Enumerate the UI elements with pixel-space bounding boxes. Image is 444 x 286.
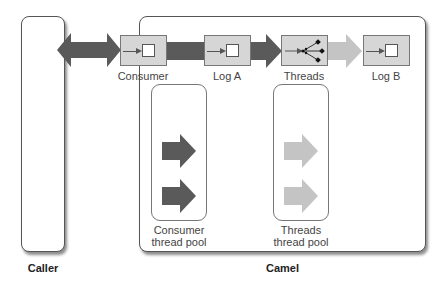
thread-arrow-icon xyxy=(284,134,318,168)
log-b-node xyxy=(363,35,410,66)
camel-label: Camel xyxy=(139,262,426,274)
flow-arrow-dark-2 xyxy=(248,34,282,68)
log-b-label: Log B xyxy=(351,70,421,82)
threads-pool-label-line2: thread pool xyxy=(261,236,341,248)
processor-icon xyxy=(385,44,398,57)
consumer-node xyxy=(120,35,167,66)
fork-threads-icon xyxy=(282,36,329,67)
threads-label: Threads xyxy=(269,70,339,82)
consumer-pool-label-line2: thread pool xyxy=(139,236,219,248)
log-a-label: Log A xyxy=(192,70,262,82)
thread-arrow-icon xyxy=(162,134,196,168)
consumer-pool-label-line1: Consumer xyxy=(139,224,219,236)
threads-node xyxy=(281,35,328,66)
threads-pool-label-line1: Threads xyxy=(261,224,341,236)
consumer-label: Consumer xyxy=(108,70,178,82)
flow-arrow-light xyxy=(328,34,362,68)
thread-arrow-icon xyxy=(284,179,318,213)
log-a-node xyxy=(204,35,251,66)
flow-arrow-dark-1 xyxy=(167,42,207,60)
processor-icon xyxy=(226,44,239,57)
bidirectional-arrow-icon xyxy=(57,33,121,67)
thread-arrow-icon xyxy=(162,179,196,213)
caller-label: Caller xyxy=(21,262,65,274)
endpoint-icon xyxy=(142,44,155,57)
